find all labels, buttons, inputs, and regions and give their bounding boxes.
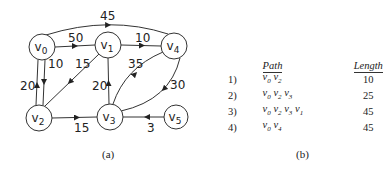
weight-v0-v2: 10 xyxy=(48,57,63,71)
row-length: 45 xyxy=(344,103,392,119)
edge-v0-v2 xyxy=(43,60,45,105)
edge-v3-v1 xyxy=(108,58,109,104)
row-path: v0 v2 v3 xyxy=(263,87,345,103)
weight-v5-v3: 3 xyxy=(147,121,155,135)
weight-v0-v4: 45 xyxy=(100,9,115,23)
shortest-paths-table: Path Length 1) v0 v2 10 2) v0 v2 v3 25 3… xyxy=(228,60,392,135)
edge-v2-v0 xyxy=(36,60,38,105)
row-number: 2) xyxy=(228,87,263,103)
weight-v2-v0: 20 xyxy=(20,79,35,93)
table-row: 4) v0 v4 45 xyxy=(228,119,392,135)
row-path: v0 v2 v3 v1 xyxy=(263,103,345,119)
weight-v4-v3: 30 xyxy=(170,78,185,92)
table-row: 2) v0 v2 v3 25 xyxy=(228,87,392,103)
row-number: 1) xyxy=(228,71,263,87)
row-path: v0 v4 xyxy=(263,119,345,135)
weight-v2-v3: 15 xyxy=(74,121,89,135)
weight-v3-v1: 20 xyxy=(92,79,107,93)
row-length: 25 xyxy=(344,87,392,103)
row-length: 10 xyxy=(344,71,392,87)
table-row: 3) v0 v2 v3 v1 45 xyxy=(228,103,392,119)
weight-v1-v4: 10 xyxy=(135,31,150,45)
caption-b: (b) xyxy=(296,148,309,160)
row-number: 4) xyxy=(228,119,263,135)
row-length: 45 xyxy=(344,119,392,135)
weight-v0-v1: 50 xyxy=(68,31,83,45)
directed-graph: v0 v1 v4 v2 v3 v5 45 50 10 10 20 15 20 3… xyxy=(0,0,200,171)
weight-v3-v4: 35 xyxy=(128,57,143,71)
edge-v2-v3 xyxy=(52,117,97,118)
header-length: Length xyxy=(354,60,383,73)
table-row: 1) v0 v2 10 xyxy=(228,71,392,87)
caption-a: (a) xyxy=(102,148,114,160)
row-path: v0 v2 xyxy=(263,71,345,87)
row-number: 3) xyxy=(228,103,263,119)
weight-v1-v2: 15 xyxy=(75,57,90,71)
